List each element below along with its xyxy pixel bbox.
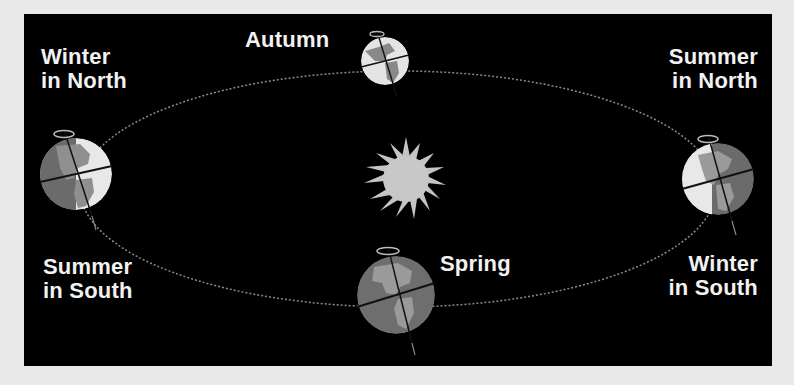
label-winter-in-south: Winter in South bbox=[668, 252, 758, 300]
diagram-panel bbox=[24, 14, 772, 366]
orbit-diagram bbox=[24, 14, 772, 366]
label-line: in South bbox=[668, 276, 758, 300]
label-line: Summer bbox=[669, 45, 758, 69]
earth-globe-icon bbox=[361, 31, 409, 97]
label-summer-in-north: Summer in North bbox=[669, 45, 758, 93]
label-line: Spring bbox=[440, 252, 511, 276]
label-summer-in-south: Summer in South bbox=[43, 255, 133, 303]
label-line: in South bbox=[43, 279, 133, 303]
label-line: in North bbox=[669, 69, 758, 93]
sun-icon bbox=[364, 137, 446, 219]
label-autumn: Autumn bbox=[245, 28, 329, 52]
label-winter-in-north: Winter in North bbox=[41, 45, 127, 93]
label-line: Winter bbox=[668, 252, 758, 276]
earth-globe-icon bbox=[682, 135, 754, 235]
label-line: Winter bbox=[41, 45, 127, 69]
earth-globe-icon bbox=[40, 130, 112, 230]
label-line: in North bbox=[41, 69, 127, 93]
earth-globe-icon bbox=[357, 247, 435, 355]
label-line: Summer bbox=[43, 255, 133, 279]
label-spring: Spring bbox=[440, 252, 511, 276]
label-line: Autumn bbox=[245, 28, 329, 52]
